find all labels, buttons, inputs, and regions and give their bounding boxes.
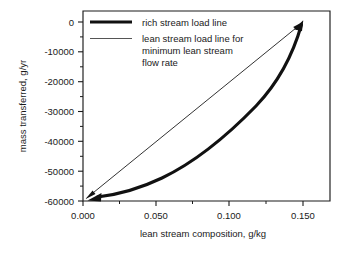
- x-tick-label: 0.100: [217, 210, 241, 221]
- y-tick-label: -30000: [44, 106, 74, 117]
- y-tick-label: -60000: [44, 196, 74, 207]
- x-tick-label: 0.150: [291, 210, 315, 221]
- y-tick-label: -40000: [44, 136, 74, 147]
- y-tick-label: -10000: [44, 46, 74, 57]
- y-axis-title: mass transferred, g/yr: [17, 60, 28, 152]
- x-tick-label: 0.000: [71, 210, 95, 221]
- legend-label-lean-stream-line1: lean stream load line for: [142, 33, 243, 44]
- y-tick-label: -50000: [44, 166, 74, 177]
- y-tick-label: -20000: [44, 76, 74, 87]
- legend-label-rich-stream: rich stream load line: [142, 17, 227, 28]
- legend-label-lean-stream-line2: minimum lean stream: [142, 45, 233, 56]
- legend-label-lean-stream-line3: flow rate: [142, 57, 178, 68]
- x-axis-title: lean stream composition, g/kg: [140, 228, 266, 239]
- x-tick-label: 0.050: [144, 210, 168, 221]
- y-tick-label: 0: [69, 17, 74, 28]
- chart-figure: 0 -10000 -20000 -30000 -40000 -50000 -60…: [0, 0, 348, 253]
